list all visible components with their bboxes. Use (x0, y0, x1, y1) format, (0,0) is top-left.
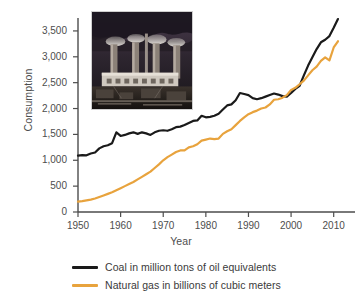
legend-swatch-coal (72, 266, 98, 269)
y-tick-label: 0 (23, 206, 67, 217)
x-tick-label: 1960 (99, 220, 143, 231)
y-tick-label: 500 (23, 180, 67, 191)
legend-item-natural-gas: Natural gas in billions of cubic meters (0, 276, 362, 294)
power-plant-photo (91, 11, 193, 110)
legend-swatch-natural-gas (72, 284, 98, 287)
x-axis-title: Year (0, 235, 362, 247)
x-tick-label: 1950 (56, 220, 100, 231)
y-tick-marks (73, 31, 78, 212)
x-tick-label: 2000 (269, 220, 313, 231)
chart-legend: Coal in million tons of oil equivalents … (0, 258, 362, 294)
legend-label-coal: Coal in million tons of oil equivalents (105, 261, 276, 273)
power-plant-photo-graphic (92, 12, 192, 109)
figure-container: 05001,0001,5002,0002,5003,0003,500 19501… (0, 0, 362, 298)
x-tick-marks (78, 212, 334, 217)
legend-item-coal: Coal in million tons of oil equivalents (0, 258, 362, 276)
x-tick-label: 1980 (184, 220, 228, 231)
y-tick-label: 3,500 (23, 25, 67, 36)
x-tick-label: 1990 (226, 220, 270, 231)
plot-area: 05001,0001,5002,0002,5003,0003,500 19501… (0, 0, 362, 250)
x-tick-label: 1970 (141, 220, 185, 231)
legend-label-natural-gas: Natural gas in billions of cubic meters (105, 279, 281, 291)
y-axis-title: Consumption (22, 40, 34, 160)
x-tick-label: 2010 (312, 220, 356, 231)
